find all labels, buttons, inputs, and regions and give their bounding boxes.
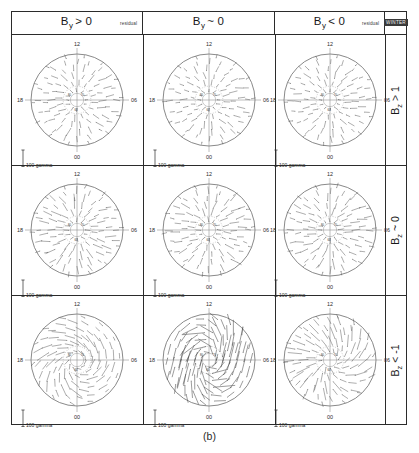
svg-text:12: 12 <box>74 171 80 177</box>
svg-text:18: 18 <box>149 357 155 363</box>
polar-dial-plot: 80706012001806100 gamma <box>147 38 271 162</box>
svg-text:00: 00 <box>74 414 80 420</box>
polar-dial-plot: 80706012001806100 gamma <box>15 38 139 162</box>
svg-text:00: 00 <box>206 154 212 160</box>
panel-bz-zero-by-negative: 80706012001806100 gamma <box>275 165 385 295</box>
svg-text:60: 60 <box>207 108 210 112</box>
svg-text:60: 60 <box>75 368 78 372</box>
svg-text:60: 60 <box>75 108 78 112</box>
panel-bz-negative-by-positive: 80706012001806100 gamma <box>11 295 143 425</box>
svg-text:18: 18 <box>17 357 23 363</box>
svg-text:18: 18 <box>270 227 276 233</box>
svg-text:00: 00 <box>327 284 333 290</box>
svg-text:100 gamma: 100 gamma <box>158 422 185 428</box>
svg-text:12: 12 <box>74 301 80 307</box>
polar-dial-plot: 80706012001806100 gamma <box>15 168 139 292</box>
polar-dial-plot: 80706012001806100 gamma <box>147 168 271 292</box>
row-title-bz-negative: Bz < -1 <box>389 344 404 376</box>
svg-text:12: 12 <box>327 41 333 47</box>
svg-text:18: 18 <box>17 97 23 103</box>
row-title-bz-positive: Bz > 1 <box>389 86 404 115</box>
column-title-by-zero: By~ 0 <box>193 15 224 30</box>
svg-text:18: 18 <box>270 357 276 363</box>
panel-bz-positive-by-zero: 80706012001806100 gamma <box>143 35 275 165</box>
svg-text:12: 12 <box>327 171 333 177</box>
polar-dial-plot: 80706012001806100 gamma <box>15 298 139 422</box>
season-badge: WINTER <box>384 19 408 26</box>
polar-dial-plot: 80706012001806100 gamma <box>268 168 392 292</box>
panel-bz-positive-by-negative: 80706012001806100 gamma <box>275 35 385 165</box>
panel-bz-negative-by-zero: 80706012001806100 gamma <box>143 295 275 425</box>
panel-bz-zero-by-zero: 80706012001806100 gamma <box>143 165 275 295</box>
row-label-bz-zero: Bz ~ 0 <box>385 165 407 295</box>
panel-bz-zero-by-positive: 80706012001806100 gamma <box>11 165 143 295</box>
svg-text:18: 18 <box>149 97 155 103</box>
svg-text:100 gamma: 100 gamma <box>279 422 306 428</box>
figure-caption: (b) <box>0 430 419 442</box>
residual-label-col3: residual <box>362 20 379 25</box>
column-title-by-negative: By< 0 <box>314 15 345 30</box>
svg-text:12: 12 <box>206 41 212 47</box>
svg-text:18: 18 <box>17 227 23 233</box>
column-title-by-positive: By> 0 <box>61 15 92 30</box>
column-header-by-zero: By~ 0 <box>143 11 275 34</box>
svg-text:70: 70 <box>81 223 84 227</box>
svg-text:18: 18 <box>149 227 155 233</box>
svg-text:00: 00 <box>74 284 80 290</box>
panel-bz-positive-by-positive: 80706012001806100 gamma <box>11 35 143 165</box>
column-header-by-positive: By> 0 residual <box>11 11 143 34</box>
svg-text:06: 06 <box>131 97 137 103</box>
svg-text:70: 70 <box>334 93 337 97</box>
panel-grid: 80706012001806100 gamma 8070601200180610… <box>11 35 407 425</box>
svg-text:00: 00 <box>206 284 212 290</box>
svg-text:00: 00 <box>327 414 333 420</box>
svg-text:00: 00 <box>206 414 212 420</box>
row-title-bz-zero: Bz ~ 0 <box>389 216 404 245</box>
svg-text:12: 12 <box>327 301 333 307</box>
polar-dial-plot: 80706012001806100 gamma <box>268 298 392 422</box>
column-header-band: By> 0 residual By~ 0 By< 0 residual WINT… <box>11 11 407 35</box>
svg-text:100 gamma: 100 gamma <box>26 422 53 428</box>
row-label-bz-negative: Bz < -1 <box>385 295 407 425</box>
row-label-bz-positive: Bz > 1 <box>385 35 407 165</box>
svg-text:00: 00 <box>74 154 80 160</box>
polar-dial-plot: 80706012001806100 gamma <box>268 38 392 162</box>
polar-dial-plot: 80706012001806100 gamma <box>147 298 271 422</box>
figure-container: By> 0 residual By~ 0 By< 0 residual WINT… <box>0 0 419 453</box>
column-header-by-negative: By< 0 residual <box>275 11 385 34</box>
svg-text:12: 12 <box>206 301 212 307</box>
residual-label-col1: residual <box>120 20 137 25</box>
svg-text:00: 00 <box>327 154 333 160</box>
svg-text:06: 06 <box>131 357 137 363</box>
season-header-cell: WINTER <box>385 11 407 34</box>
svg-text:18: 18 <box>270 97 276 103</box>
panel-bz-negative-by-negative: 80706012001806100 gamma <box>275 295 385 425</box>
svg-text:12: 12 <box>74 41 80 47</box>
svg-text:12: 12 <box>206 171 212 177</box>
svg-text:06: 06 <box>131 227 137 233</box>
